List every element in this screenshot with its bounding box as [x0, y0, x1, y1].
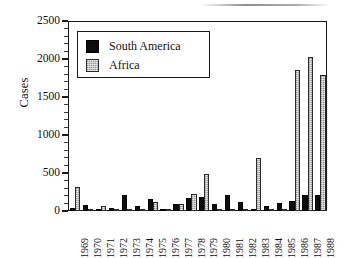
- x-tick-label-1979: 1979: [208, 238, 219, 258]
- legend-label-africa: Africa: [109, 59, 140, 71]
- bar-group: [288, 21, 301, 211]
- x-tick-label-1987: 1987: [312, 238, 323, 258]
- bar-africa-1976: [166, 209, 171, 211]
- x-tick-label-1977: 1977: [183, 238, 194, 258]
- x-tick-label-1980: 1980: [221, 238, 232, 258]
- bar-africa-1982: [243, 209, 248, 211]
- bar-africa-1985: [282, 209, 287, 211]
- chart-legend: South America Africa: [77, 31, 210, 78]
- bar-group: [263, 21, 276, 211]
- bar-africa-1986: [295, 70, 300, 211]
- y-tick-label: 1000: [26, 129, 60, 141]
- x-tick-label-1974: 1974: [144, 238, 155, 258]
- bar-africa-1972: [114, 209, 119, 211]
- bar-africa-1977: [179, 204, 184, 211]
- bar-africa-1984: [269, 209, 274, 211]
- bar-group: [211, 21, 224, 211]
- bar-africa-1988: [320, 75, 325, 211]
- x-tick-label-1972: 1972: [118, 238, 129, 258]
- x-tick-label-1984: 1984: [273, 238, 284, 258]
- legend-entry-africa: Africa: [86, 56, 140, 74]
- black-square-swatch-icon: [86, 40, 99, 53]
- legend-label-south-america: South America: [109, 40, 181, 52]
- x-tick-label-1978: 1978: [196, 238, 207, 258]
- x-tick-label-1970: 1970: [92, 238, 103, 258]
- bar-africa-1981: [230, 209, 235, 211]
- bar-group: [301, 21, 314, 211]
- bar-group: [275, 21, 288, 211]
- y-tick-label: 0: [26, 205, 60, 217]
- bar-group: [237, 21, 250, 211]
- bar-group: [250, 21, 263, 211]
- bar-africa-1973: [127, 209, 132, 211]
- y-tick-label: 500: [26, 167, 60, 179]
- x-tick-label-1971: 1971: [105, 238, 116, 258]
- gray-square-swatch-icon: [86, 59, 99, 72]
- x-tick-label-1988: 1988: [325, 238, 336, 258]
- bar-africa-1974: [140, 209, 145, 211]
- y-tick-label: 1500: [26, 91, 60, 103]
- bar-africa-1970: [88, 209, 93, 211]
- bar-africa-1987: [308, 57, 313, 211]
- y-tick-label: 2000: [26, 53, 60, 65]
- y-tick-label: 2500: [26, 15, 60, 27]
- x-tick-label-1983: 1983: [260, 238, 271, 258]
- bar-africa-1975: [153, 202, 158, 211]
- bar-group: [224, 21, 237, 211]
- scan-artifact-line: [200, 4, 330, 6]
- x-tick-label-1975: 1975: [157, 238, 168, 258]
- x-tick-label-1976: 1976: [170, 238, 181, 258]
- x-tick-label-1985: 1985: [286, 238, 297, 258]
- x-tick-label-1982: 1982: [247, 238, 258, 258]
- legend-entry-south-america: South America: [86, 37, 181, 55]
- x-tick-label-1981: 1981: [234, 238, 245, 258]
- bar-africa-1983: [256, 158, 261, 211]
- bar-africa-1979: [204, 174, 209, 211]
- bar-africa-1969: [75, 187, 80, 211]
- x-tick-label-1969: 1969: [79, 238, 90, 258]
- bar-africa-1971: [101, 206, 106, 211]
- x-tick-label-1973: 1973: [131, 238, 142, 258]
- x-tick-label-1986: 1986: [299, 238, 310, 258]
- bar-group: [314, 21, 327, 211]
- bar-africa-1978: [191, 194, 196, 211]
- bar-africa-1980: [217, 209, 222, 211]
